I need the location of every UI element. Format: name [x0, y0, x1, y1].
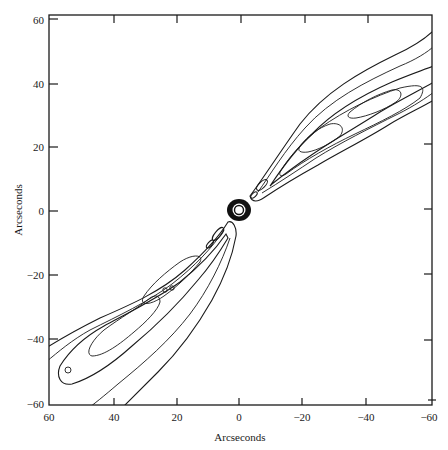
y-tick-label: 20	[33, 141, 45, 153]
southwest-lobe	[46, 222, 236, 410]
x-tick-label: 60	[44, 411, 56, 423]
y-tick-label: 40	[33, 78, 45, 90]
contour-map	[46, 30, 434, 410]
x-tick-label: −20	[293, 411, 311, 423]
x-tick-label: −40	[357, 411, 375, 423]
x-tick-label: −60	[420, 411, 438, 423]
y-axis-title: Arcseconds	[12, 184, 24, 235]
northeast-lobe	[250, 30, 434, 201]
core	[227, 199, 251, 221]
x-tick-label: 20	[172, 411, 184, 423]
contour-plot: 60 40 20 0 −20 −40 −60 60 40 20 0 −20 −4…	[0, 0, 448, 450]
x-tick-labels: 60 40 20 0 −20 −40 −60	[44, 411, 439, 423]
y-tick-label: 0	[39, 205, 45, 217]
y-tick-labels: 60 40 20 0 −20 −40 −60	[27, 14, 45, 410]
y-tick-label: 60	[33, 14, 45, 26]
x-axis-title: Arcseconds	[214, 431, 265, 443]
x-tick-label: 0	[236, 411, 242, 423]
x-tick-label: 40	[109, 411, 121, 423]
y-tick-label: −40	[27, 333, 45, 345]
y-tick-label: −60	[27, 398, 45, 410]
y-tick-label: −20	[27, 269, 45, 281]
